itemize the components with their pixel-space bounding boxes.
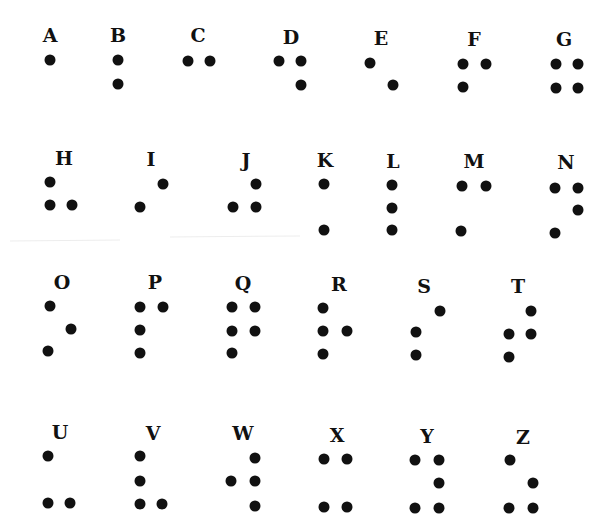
braille-dot-icon <box>504 503 515 514</box>
braille-dot-icon <box>434 455 445 466</box>
letter-label: Y <box>420 426 434 446</box>
braille-dot-icon <box>43 498 54 509</box>
braille-dot-icon <box>67 200 78 211</box>
braille-dot-icon <box>387 180 398 191</box>
braille-dot-icon <box>342 454 353 465</box>
braille-dot-icon <box>45 200 56 211</box>
scan-artifact-line <box>10 239 120 241</box>
braille-dot-icon <box>318 349 329 360</box>
braille-dot-icon <box>227 326 238 337</box>
letter-label: D <box>283 27 299 47</box>
braille-dot-icon <box>250 453 261 464</box>
letter-label: B <box>110 25 126 45</box>
letter-label: P <box>148 272 162 292</box>
braille-dot-icon <box>318 303 329 314</box>
letter-label: L <box>386 151 399 171</box>
braille-dot-icon <box>526 329 537 340</box>
braille-dot-icon <box>551 83 562 94</box>
braille-dot-icon <box>388 80 399 91</box>
braille-dot-icon <box>319 502 330 513</box>
braille-dot-icon <box>434 478 445 489</box>
braille-dot-icon <box>550 183 561 194</box>
braille-dot-icon <box>458 59 469 70</box>
braille-dot-icon <box>135 348 146 359</box>
braille-dot-icon <box>528 503 539 514</box>
braille-dot-icon <box>504 352 515 363</box>
braille-dot-icon <box>411 327 422 338</box>
braille-dot-icon <box>434 503 445 514</box>
braille-dot-icon <box>551 59 562 70</box>
braille-dot-icon <box>526 306 537 317</box>
braille-dot-icon <box>135 476 146 487</box>
braille-dot-icon <box>296 80 307 91</box>
letter-label: T <box>511 276 525 296</box>
letter-label: O <box>54 272 71 292</box>
braille-dot-icon <box>505 455 516 466</box>
letter-label: Q <box>235 273 252 293</box>
letter-label: M <box>463 151 484 171</box>
letter-label: F <box>467 29 481 49</box>
braille-dot-icon <box>226 476 237 487</box>
braille-dot-icon <box>573 59 584 70</box>
braille-dot-icon <box>481 59 492 70</box>
braille-dot-icon <box>135 325 146 336</box>
braille-dot-icon <box>135 451 146 462</box>
letter-label: K <box>317 150 334 170</box>
braille-dot-icon <box>43 346 54 357</box>
braille-dot-icon <box>183 56 194 67</box>
braille-dot-icon <box>573 83 584 94</box>
braille-dot-icon <box>365 58 376 69</box>
braille-dot-icon <box>45 177 56 188</box>
braille-dot-icon <box>251 202 262 213</box>
braille-dot-icon <box>45 55 56 66</box>
braille-dot-icon <box>227 348 238 359</box>
letter-label: E <box>374 28 388 48</box>
braille-dot-icon <box>250 476 261 487</box>
braille-dot-icon <box>228 202 239 213</box>
braille-alphabet-chart: ABCDEFGHIJKLMNOPQRSTUVWXYZ <box>0 0 603 527</box>
braille-dot-icon <box>250 501 261 512</box>
braille-dot-icon <box>65 498 76 509</box>
braille-dot-icon <box>456 226 467 237</box>
braille-dot-icon <box>135 202 146 213</box>
braille-dot-icon <box>342 326 353 337</box>
braille-dot-icon <box>66 324 77 335</box>
letter-label: I <box>147 149 156 169</box>
braille-dot-icon <box>296 56 307 67</box>
braille-dot-icon <box>274 56 285 67</box>
braille-dot-icon <box>318 326 329 337</box>
braille-dot-icon <box>504 329 515 340</box>
letter-label: V <box>146 423 161 443</box>
braille-dot-icon <box>411 350 422 361</box>
braille-dot-icon <box>435 306 446 317</box>
braille-dot-icon <box>43 451 54 462</box>
letter-label: H <box>55 148 73 168</box>
braille-dot-icon <box>135 499 146 510</box>
braille-dot-icon <box>573 205 584 216</box>
letter-label: Z <box>516 427 530 447</box>
braille-dot-icon <box>113 55 124 66</box>
letter-label: R <box>331 274 347 294</box>
braille-dot-icon <box>319 179 330 190</box>
braille-dot-icon <box>481 181 492 192</box>
braille-dot-icon <box>458 82 469 93</box>
braille-dot-icon <box>157 499 168 510</box>
braille-dot-icon <box>158 179 169 190</box>
braille-dot-icon <box>158 302 169 313</box>
letter-label: J <box>242 150 251 170</box>
braille-dot-icon <box>410 503 421 514</box>
braille-dot-icon <box>410 455 421 466</box>
braille-dot-icon <box>319 225 330 236</box>
scan-artifact-line <box>170 236 300 238</box>
braille-dot-icon <box>528 478 539 489</box>
letter-label: C <box>190 25 205 45</box>
braille-dot-icon <box>227 302 238 313</box>
letter-label: W <box>232 423 253 443</box>
braille-dot-icon <box>387 203 398 214</box>
braille-dot-icon <box>250 326 261 337</box>
letter-label: G <box>556 29 572 49</box>
letter-label: S <box>417 276 431 296</box>
braille-dot-icon <box>342 502 353 513</box>
braille-dot-icon <box>387 225 398 236</box>
braille-dot-icon <box>251 179 262 190</box>
